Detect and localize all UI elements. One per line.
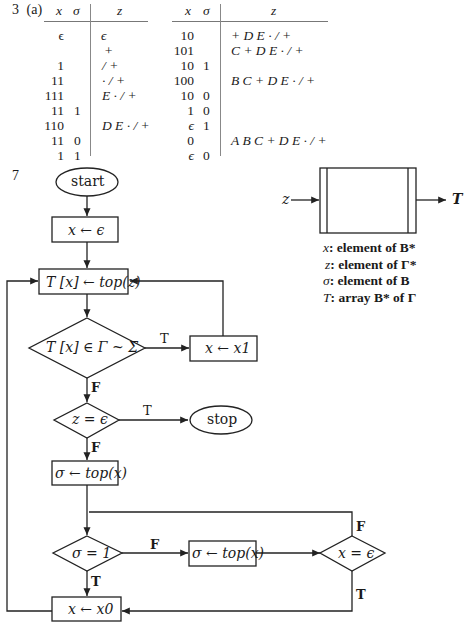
test-T-true-label: T bbox=[160, 331, 169, 346]
legend-text: : element of B* bbox=[329, 240, 416, 255]
legend-item: T: array B* of Γ bbox=[323, 290, 416, 307]
legend-item: x: element of B* bbox=[323, 240, 416, 257]
append-1-label: x ← x1 bbox=[205, 340, 250, 356]
assign-T-label: T [x] ← top(z) bbox=[46, 274, 141, 290]
test-z-true-label: T bbox=[143, 403, 152, 418]
test-T-false-label: F bbox=[91, 380, 100, 395]
test-sigma-label: σ = 1 bbox=[72, 545, 111, 561]
assign-T-text: T [x] ← top(z) bbox=[46, 274, 141, 290]
block-box bbox=[320, 168, 416, 233]
stop-label: stop bbox=[207, 411, 237, 427]
test-sigma-false-label: F bbox=[150, 537, 159, 552]
variable-legend: x: element of B* z: element of Γ* σ: ele… bbox=[323, 240, 416, 306]
pop-sigma-2-label: σ ← top(x) bbox=[192, 545, 264, 561]
test-x-false-label: F bbox=[356, 519, 365, 534]
legend-text: : element of Γ* bbox=[330, 257, 416, 272]
test-T-label: T [x] ∈ Γ ~ Σ bbox=[46, 339, 138, 355]
legend-var: σ bbox=[323, 273, 330, 288]
legend-text: : array B* of Γ bbox=[331, 290, 417, 305]
block-input-label: z bbox=[282, 191, 289, 207]
legend-item: z: element of Γ* bbox=[323, 257, 416, 274]
test-z-label: z = ϵ bbox=[72, 411, 108, 427]
legend-item: σ: element of B bbox=[323, 273, 416, 290]
init-label: x ← ϵ bbox=[68, 222, 104, 238]
append-0-label: x ← x0 bbox=[68, 601, 113, 617]
start-label: start bbox=[71, 173, 104, 189]
legend-text: : element of B bbox=[330, 273, 410, 288]
test-x-label: x = ϵ bbox=[338, 545, 374, 561]
test-sigma-true-label: T bbox=[91, 574, 101, 589]
pop-sigma-1-label: σ ← top(x) bbox=[55, 465, 127, 481]
flowchart bbox=[0, 0, 475, 630]
test-x-true-label: T bbox=[356, 587, 366, 602]
legend-var: T bbox=[323, 290, 331, 305]
block-output-label: T bbox=[452, 191, 462, 207]
test-z-false-label: F bbox=[91, 440, 100, 455]
